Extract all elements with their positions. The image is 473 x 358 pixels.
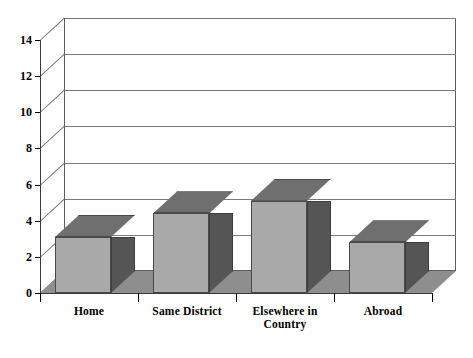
bar-elsewhere-in-country [251, 179, 307, 293]
bar-front-face [153, 213, 209, 293]
bar-abroad [349, 220, 405, 293]
bar-chart: 14121086420 HomeSame DistrictElsewhere i… [0, 0, 473, 358]
x-axis-tick-mark [138, 293, 139, 302]
x-axis-label-line1: Home [40, 305, 138, 318]
x-axis-label: Home [40, 305, 138, 318]
y-axis-tick-mark [35, 40, 40, 41]
y-axis-tick-label: 2 [4, 249, 32, 264]
y-axis-tick-label: 0 [4, 286, 32, 301]
x-axis-label-line1: Same District [138, 305, 236, 318]
x-axis-label-line2: Country [236, 318, 334, 331]
bar-front-face [349, 242, 405, 293]
x-axis-label: Same District [138, 305, 236, 318]
x-axis-tick-mark [432, 293, 433, 302]
gridline-connector [40, 18, 65, 41]
y-axis-line [40, 40, 41, 293]
y-axis-tick-mark [35, 185, 40, 186]
gridline [64, 126, 456, 127]
x-axis-tick-mark [40, 293, 41, 302]
y-axis-tick-label: 10 [4, 105, 32, 120]
bar-front-face [55, 237, 111, 293]
x-axis-label-line1: Abroad [334, 305, 432, 318]
x-axis-tick-mark [334, 293, 335, 302]
gridline [64, 18, 456, 19]
x-axis-label-line1: Elsewhere in [236, 305, 334, 318]
bar-same-district [153, 191, 209, 293]
y-axis-tick-label: 4 [4, 213, 32, 228]
y-axis-tick-label: 8 [4, 141, 32, 156]
y-axis-tick-mark [35, 148, 40, 149]
y-axis-tick-label: 14 [4, 33, 32, 48]
y-axis-tick-label: 6 [4, 177, 32, 192]
gridline-connector [40, 90, 65, 113]
gridline-connector [40, 54, 65, 77]
gridline [64, 54, 456, 55]
x-axis-label: Abroad [334, 305, 432, 318]
bar-home [55, 215, 111, 293]
gridline [64, 163, 456, 164]
y-axis-tick-mark [35, 112, 40, 113]
y-axis-tick-mark [35, 76, 40, 77]
x-axis-label: Elsewhere inCountry [236, 305, 334, 331]
x-axis-tick-mark [236, 293, 237, 302]
gridline [64, 90, 456, 91]
bar-front-face [251, 201, 307, 293]
gridline-connector [40, 127, 65, 150]
gridline-connector [40, 163, 65, 186]
y-axis-tick-mark [35, 221, 40, 222]
y-axis-tick-mark [35, 257, 40, 258]
y-axis-tick-label: 12 [4, 69, 32, 84]
